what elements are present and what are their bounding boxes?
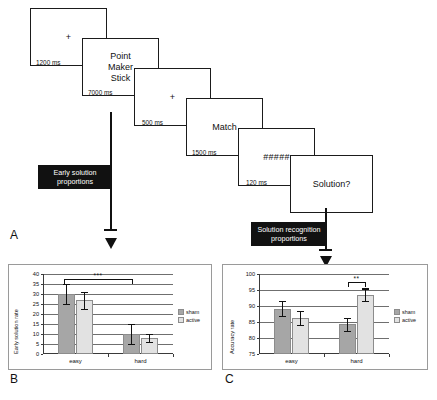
solution-recognition-callout-line2: proportions [271,234,307,243]
y-tick-mark [41,304,44,305]
y-tick-mark [41,324,44,325]
y-tick-mark [257,290,260,291]
early-solution-callout-line2: proportions [57,177,93,186]
significance-stars: ** [348,275,366,282]
y-tick-label: 75 [237,351,255,357]
fixation-cross-glyph: + [66,33,71,42]
y-tick-label: 5 [21,341,39,347]
error-cap-easy-sham-high [279,301,286,302]
y-tick-mark [41,354,44,355]
legend-item-active: active [178,316,200,324]
y-tick-label: 90 [237,303,255,309]
legend-swatch-active [394,317,400,323]
error-bar-easy-active [300,311,301,325]
error-cap-hard-active-high [362,288,369,289]
error-bar-hard-active [365,288,366,301]
error-cap-hard-sham-low [128,344,135,345]
legend-swatch-sham [394,309,400,315]
error-cap-easy-sham-high [63,284,70,285]
y-tick-label: 10 [21,331,39,337]
y-tick-mark [41,344,44,345]
early-solution-callout-line1: Early solution [53,168,96,177]
y-tick-label: 15 [21,321,39,327]
error-cap-easy-active-low [81,309,88,310]
word-triad-text: Point Maker Stick [108,51,133,84]
chart-legend: shamactive [178,308,200,324]
x-tick-label-easy: easy [43,358,108,364]
error-cap-hard-active-low [362,301,369,302]
error-cap-easy-sham-low [63,304,70,305]
fixation-cross-glyph-2: + [170,93,175,102]
error-bar-hard-sham [347,318,348,331]
legend-label-active: active [402,316,416,324]
legend-item-sham: sham [394,308,416,316]
y-tick-mark [257,274,260,275]
solution-recognition-callout-line1: Solution recognition [257,225,320,234]
y-tick-label: 100 [237,271,255,277]
x-tick-label-hard: hard [108,358,173,364]
y-tick-label: 95 [237,287,255,293]
panel-label-a: A [10,228,18,242]
duration-label-word-triad: 7000 ms [88,89,113,96]
chart-panel-c-accuracy-rate: 7580859095100Accuracy rateeasyhard**sham… [222,264,428,370]
error-cap-easy-active-high [81,292,88,293]
error-cap-hard-active-low [146,342,153,343]
stimulus-screen-probe: Solution? [290,155,373,213]
panel-label-b: B [10,372,18,386]
y-tick-label: 25 [21,301,39,307]
legend-label-sham: sham [402,308,415,316]
legend-swatch-sham [178,309,184,315]
solution-recognition-callout: Solution recognition proportions [251,222,327,246]
chart-legend: shamactive [394,308,416,324]
error-cap-hard-sham-low [344,331,351,332]
error-cap-hard-sham-high [128,324,135,325]
y-tick-mark [257,338,260,339]
error-bar-easy-active [84,292,85,310]
y-tick-mark [257,322,260,323]
x-tick-mark [389,354,390,357]
duration-label-fixation-2: 500 ms [142,119,163,126]
bar-hard-active [357,295,374,354]
y-tick-mark [41,334,44,335]
y-tick-label: 35 [21,281,39,287]
error-bar-hard-sham [131,324,132,344]
significance-bracket [348,282,366,287]
legend-swatch-active [178,317,184,323]
y-tick-mark [41,314,44,315]
chart-panel-b-early-solution-rate: 0510152025303540Early solution rateeasyh… [8,264,212,370]
y-tick-label: 30 [21,291,39,297]
y-axis-label: Accuracy rate [229,320,235,354]
x-tick-mark [324,354,325,357]
y-tick-label: 20 [21,311,39,317]
duration-label-solution-word: 1500 ms [192,149,217,156]
error-cap-hard-active-high [146,334,153,335]
y-tick-mark [41,294,44,295]
legend-item-active: active [394,316,416,324]
solution-recognition-arrow-tick [319,249,332,251]
y-tick-label: 80 [237,335,255,341]
legend-item-sham: sham [178,308,200,316]
y-tick-mark [41,274,44,275]
duration-label-mask: 120 ms [246,179,267,186]
significance-stars: *** [64,272,133,279]
legend-label-active: active [186,316,200,324]
y-tick-label: 0 [21,351,39,357]
gridline [260,274,389,275]
early-solution-arrow-tick [104,229,117,231]
error-bar-easy-sham [66,284,67,304]
x-tick-label-hard: hard [324,358,389,364]
significance-bracket [64,279,133,284]
y-tick-mark [257,306,260,307]
y-tick-label: 40 [21,271,39,277]
early-solution-arrowhead [105,238,117,249]
error-cap-easy-active-low [297,325,304,326]
x-tick-mark [108,354,109,357]
solution-word-text: Match [212,122,237,133]
panel-label-c: C [225,372,234,386]
early-solution-callout: Early solution proportions [38,165,112,189]
y-tick-label: 85 [237,319,255,325]
panel-a-trial-sequence: + 1200 ms Point Maker Stick 7000 ms + 50… [0,0,437,252]
mask-text: ##### [263,152,290,162]
y-tick-mark [41,284,44,285]
duration-label-fixation-1: 1200 ms [36,59,61,66]
